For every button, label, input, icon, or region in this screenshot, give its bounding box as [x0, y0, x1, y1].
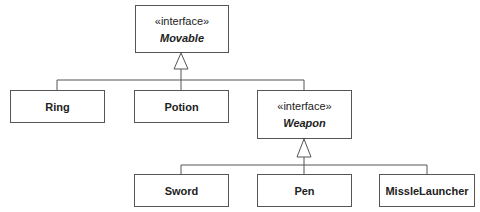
class-name: MissleLauncher — [385, 185, 468, 197]
interface-name: Movable — [160, 32, 204, 44]
class-sword: Sword — [134, 174, 229, 207]
interface-movable: «interface» Movable — [135, 5, 229, 53]
generalization-arrow-weapon — [297, 139, 311, 157]
interface-name: Weapon — [283, 117, 326, 129]
class-name: Ring — [45, 101, 69, 113]
class-misslelauncher: MissleLauncher — [379, 174, 475, 207]
class-name: Pen — [294, 185, 314, 197]
stereotype-label: «interface» — [155, 15, 209, 27]
interface-weapon: «interface» Weapon — [257, 90, 352, 139]
class-potion: Potion — [134, 90, 229, 123]
class-name: Sword — [165, 185, 199, 197]
class-ring: Ring — [10, 90, 105, 123]
generalization-arrow-movable — [174, 53, 188, 69]
class-pen: Pen — [257, 174, 352, 207]
stereotype-label: «interface» — [277, 100, 331, 112]
class-name: Potion — [164, 101, 198, 113]
